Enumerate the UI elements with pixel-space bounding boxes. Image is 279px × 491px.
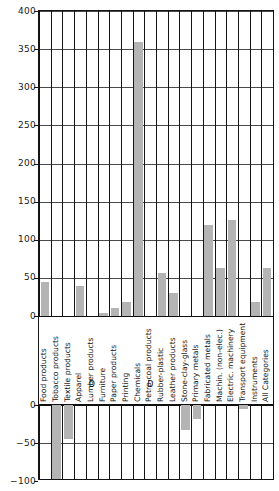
x-axis-tick-label-text: Paper products xyxy=(110,345,118,402)
column-divider xyxy=(238,11,239,479)
x-axis-tick-label-text: Furniture xyxy=(99,368,107,402)
x-axis-tick-label-text: Printing xyxy=(122,373,130,402)
y-axis-tick-mark xyxy=(34,49,38,50)
column-divider xyxy=(121,11,122,479)
y-axis-tick-label: 300 xyxy=(2,83,36,92)
x-axis-tick-label-text: All Categories xyxy=(262,349,270,402)
y-axis-tick-label: 400 xyxy=(2,7,36,16)
x-axis-tick-label: Printing xyxy=(121,317,133,404)
column-divider xyxy=(98,11,99,479)
column-divider xyxy=(144,11,145,479)
bar xyxy=(134,42,143,316)
category-label-band: Food productsTobacco productsTextile pro… xyxy=(39,316,273,405)
y-axis-tick-label: 200 xyxy=(2,159,36,168)
y-axis-tick-mark xyxy=(34,405,38,406)
bar xyxy=(181,405,190,430)
x-axis-tick-label-text: Apparel xyxy=(75,373,83,402)
y-axis-tick-label: 0 xyxy=(2,401,36,410)
x-axis-tick-label: Stone-clay-glass xyxy=(179,317,191,404)
y-axis-tick-label: 50 xyxy=(2,273,36,282)
bar xyxy=(158,273,167,316)
x-axis-tick-label: Instruments xyxy=(250,317,262,404)
bar xyxy=(193,405,202,419)
x-axis-tick-label-text: Food products xyxy=(40,348,48,402)
x-axis-tick-label-text: Tobacco products xyxy=(52,336,60,402)
suppressed-marker: D xyxy=(89,381,95,389)
x-axis-tick-label: Petro-coal products xyxy=(144,317,156,404)
x-axis-tick-label-text: Rubber-plastic xyxy=(157,348,165,402)
x-axis-tick-label: Electric. machinery xyxy=(226,317,238,404)
x-axis-tick-label-text: Lumber products xyxy=(87,338,95,403)
y-axis-tick-mark xyxy=(34,481,38,482)
x-axis-tick-label: Fabricated metals xyxy=(203,317,215,404)
column-divider xyxy=(273,11,274,479)
x-axis-tick-label: Leather products xyxy=(168,317,180,404)
x-axis-tick-label: Apparel xyxy=(74,317,86,404)
x-axis-tick-label: Furniture xyxy=(98,317,110,404)
bar xyxy=(204,225,213,317)
y-axis: 4003503002502001501005000−50−100 xyxy=(0,0,36,491)
y-axis-tick-label: −100 xyxy=(2,477,36,486)
bar xyxy=(216,268,225,316)
x-axis-tick-label-text: Stone-clay-glass xyxy=(181,340,189,402)
x-axis-tick-label: Tobacco products xyxy=(51,317,63,404)
column-divider xyxy=(109,11,110,479)
x-axis-tick-label-text: Transport equipment xyxy=(239,323,247,402)
y-axis-tick-label: 350 xyxy=(2,45,36,54)
bar xyxy=(52,405,61,480)
x-axis-tick-label-text: Electric. machinery xyxy=(227,329,235,402)
y-axis-tick-mark xyxy=(34,202,38,203)
x-axis-tick-label: Chemicals xyxy=(133,317,145,404)
column-divider xyxy=(250,11,251,479)
x-axis-tick-label-text: Leather products xyxy=(169,337,177,402)
plot-area: DD Food productsTobacco productsTextile … xyxy=(38,10,274,480)
x-axis-tick-label: Machin. (non-elec.) xyxy=(215,317,227,404)
bar xyxy=(251,302,260,316)
column-divider xyxy=(261,11,262,479)
plot-inner: DD xyxy=(39,11,273,479)
column-divider xyxy=(179,11,180,479)
x-axis-tick-label-text: Instruments xyxy=(251,356,259,402)
y-axis-tick-label: 100 xyxy=(2,235,36,244)
x-axis-tick-label-text: Machin. (non-elec.) xyxy=(216,329,224,402)
column-divider xyxy=(168,11,169,479)
x-axis-tick-label: Lumber products xyxy=(86,317,98,404)
bar xyxy=(41,282,50,316)
y-axis-tick-mark xyxy=(34,164,38,165)
x-axis-tick-label: Transport equipment xyxy=(238,317,250,404)
bar-chart: 4003503002502001501005000−50−100 DD Food… xyxy=(0,0,279,491)
bar xyxy=(76,286,85,317)
x-axis-tick-label-text: Fabricated metals xyxy=(204,334,212,402)
x-axis-tick-label-text: Primary metals xyxy=(192,344,200,402)
y-axis-tick-mark xyxy=(34,11,38,12)
y-axis-tick-label: −50 xyxy=(2,439,36,448)
x-axis-tick-label: Rubber-plastic xyxy=(156,317,168,404)
bar xyxy=(111,308,120,316)
x-axis-tick-label: Textile products xyxy=(62,317,74,404)
x-axis-tick-label-text: Petro-coal products xyxy=(145,328,153,402)
column-divider xyxy=(39,11,40,479)
y-axis-tick-mark xyxy=(34,443,38,444)
bar xyxy=(122,302,131,316)
column-divider xyxy=(215,11,216,479)
y-axis-tick-mark xyxy=(34,316,38,317)
x-axis-tick-label: Paper products xyxy=(109,317,121,404)
x-axis-tick-label: All Categories xyxy=(261,317,273,404)
bar xyxy=(64,405,73,439)
column-divider xyxy=(62,11,63,479)
y-axis-tick-label: 250 xyxy=(2,121,36,130)
y-axis-tick-mark xyxy=(34,240,38,241)
column-divider xyxy=(156,11,157,479)
x-axis-tick-label: Primary metals xyxy=(191,317,203,404)
suppressed-marker: D xyxy=(147,381,153,389)
y-axis-tick-label: 0 xyxy=(2,312,36,321)
y-axis-tick-label: 150 xyxy=(2,197,36,206)
x-axis-tick-label-text: Textile products xyxy=(64,342,72,402)
y-axis-tick-mark xyxy=(34,87,38,88)
y-axis-tick-mark xyxy=(34,125,38,126)
bar xyxy=(169,293,178,316)
column-divider xyxy=(74,11,75,479)
bar xyxy=(263,268,272,316)
y-axis-tick-mark xyxy=(34,278,38,279)
x-axis-tick-label-text: Chemicals xyxy=(134,363,142,402)
